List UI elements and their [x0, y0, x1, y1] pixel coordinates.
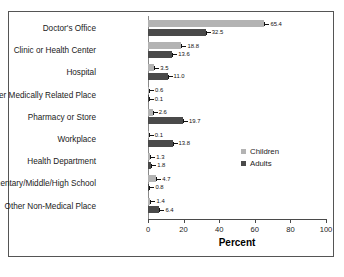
bar-group: Health Department1.31.8: [9, 151, 333, 173]
bar-children: [148, 175, 156, 182]
bar-children: [148, 42, 181, 49]
category-label: Health Department: [0, 151, 96, 173]
value-leader-line: [155, 68, 159, 69]
bar-value-label: 18.8: [187, 43, 198, 49]
bar-value-label: 0.6: [155, 87, 163, 93]
bar-group: Other Medically Related Place0.60.1: [9, 85, 333, 107]
value-leader-line: [150, 90, 154, 91]
value-leader-line: [207, 32, 211, 33]
bar-value-label: 3.5: [160, 65, 168, 71]
x-tick-label: 20: [173, 225, 195, 234]
category-label: Other Medically Related Place: [0, 85, 96, 107]
value-leader-line: [150, 187, 154, 188]
x-tick-label: 60: [244, 225, 266, 234]
category-label: Other Non-Medical Place: [0, 196, 96, 218]
bar-value-label: 6.4: [165, 207, 173, 213]
bar-value-label: 65.4: [270, 21, 281, 27]
bar-group: Other Non-Medical Place1.46.4: [9, 196, 333, 218]
value-leader-line: [157, 179, 161, 180]
x-tick: [148, 219, 149, 223]
bar-value-label: 32.5: [212, 29, 223, 35]
chart-frame: Doctor's Office65.432.5Clinic or Health …: [8, 11, 334, 257]
category-label: Workplace: [0, 129, 96, 151]
bars-container: 4.70.8: [148, 173, 326, 195]
category-label: Hospital: [0, 62, 96, 84]
bar-group: Doctor's Office65.432.5: [9, 18, 333, 40]
x-tick: [326, 219, 327, 223]
bar-children: [148, 20, 264, 27]
bar-value-label: 13.8: [179, 140, 190, 146]
bar-group: Workplace0.113.8: [9, 129, 333, 151]
bar-value-label: 13.6: [178, 51, 189, 57]
value-leader-line: [265, 24, 269, 25]
x-tick-label: 40: [208, 225, 230, 234]
bar-group: Elementary/Middle/High School4.70.8: [9, 173, 333, 195]
chart-legend: ChildrenAdults: [241, 146, 279, 170]
x-tick: [255, 219, 256, 223]
value-leader-line: [160, 210, 164, 211]
bar-value-label: 1.4: [156, 198, 164, 204]
legend-label: Children: [250, 147, 279, 156]
value-leader-line: [150, 99, 154, 100]
x-tick-label: 100: [315, 225, 337, 234]
legend-label: Adults: [250, 159, 272, 168]
bar-value-label: 19.7: [189, 118, 200, 124]
legend-item: Children: [241, 146, 279, 157]
bar-value-label: 1.8: [157, 162, 165, 168]
bar-value-label: 4.7: [162, 176, 170, 182]
bars-container: 1.31.8: [148, 151, 326, 173]
bars-container: 0.113.8: [148, 129, 326, 151]
bar-value-label: 11.0: [174, 73, 185, 79]
x-tick-label: 0: [137, 225, 159, 234]
bar-adults: [148, 117, 183, 124]
value-leader-line: [169, 76, 173, 77]
value-leader-line: [154, 112, 158, 113]
bars-container: 65.432.5: [148, 18, 326, 40]
plot-area: Doctor's Office65.432.5Clinic or Health …: [9, 12, 333, 256]
bar-adults: [148, 140, 173, 147]
category-label: Doctor's Office: [0, 18, 96, 40]
bar-group: Clinic or Health Center18.813.6: [9, 40, 333, 62]
bars-container: 18.813.6: [148, 40, 326, 62]
x-tick: [219, 219, 220, 223]
value-leader-line: [150, 135, 154, 136]
bar-value-label: 0.1: [155, 96, 163, 102]
value-leader-line: [184, 121, 188, 122]
category-label: Clinic or Health Center: [0, 40, 96, 62]
bars-container: 1.46.4: [148, 196, 326, 218]
value-leader-line: [174, 143, 178, 144]
bar-adults: [148, 51, 172, 58]
x-axis-title: Percent: [148, 237, 326, 248]
value-leader-line: [152, 165, 156, 166]
bar-value-label: 0.8: [155, 184, 163, 190]
bars-container: 0.60.1: [148, 85, 326, 107]
legend-swatch: [241, 161, 246, 166]
bar-adults: [148, 206, 159, 213]
legend-swatch: [241, 149, 246, 154]
legend-item: Adults: [241, 158, 279, 169]
bar-adults: [148, 73, 168, 80]
bar-group: Hospital3.511.0: [9, 62, 333, 84]
bars-container: 3.511.0: [148, 62, 326, 84]
x-tick-label: 80: [279, 225, 301, 234]
bars-container: 2.619.7: [148, 107, 326, 129]
bar-group: Pharmacy or Store2.619.7: [9, 107, 333, 129]
value-leader-line: [173, 54, 177, 55]
x-axis-line: [148, 219, 326, 220]
category-label: Pharmacy or Store: [0, 107, 96, 129]
bar-value-label: 0.1: [155, 132, 163, 138]
bar-adults: [148, 29, 206, 36]
bar-value-label: 1.3: [156, 154, 164, 160]
value-leader-line: [151, 201, 155, 202]
value-leader-line: [182, 46, 186, 47]
value-leader-line: [151, 157, 155, 158]
bar-value-label: 2.6: [159, 109, 167, 115]
category-label: Elementary/Middle/High School: [0, 173, 96, 195]
x-tick: [184, 219, 185, 223]
x-tick: [290, 219, 291, 223]
